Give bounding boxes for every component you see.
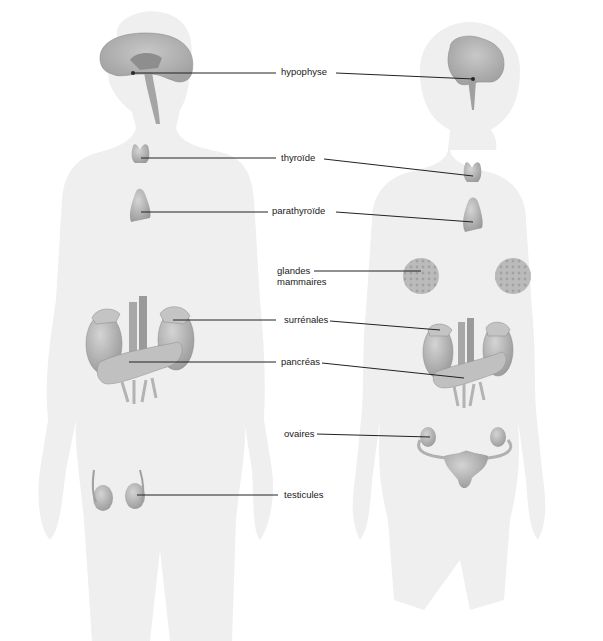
female-body-silhouette bbox=[353, 22, 546, 610]
label-surrenales: surrénales bbox=[282, 314, 330, 325]
label-ovaires: ovaires bbox=[282, 428, 317, 439]
label-glandes-mammaires: glandes mammaires bbox=[275, 265, 329, 287]
female-thyroid bbox=[464, 162, 482, 182]
label-thyroide: thyroïde bbox=[279, 152, 317, 163]
label-testicules: testicules bbox=[282, 489, 326, 500]
label-parathyroide: parathyroïde bbox=[270, 205, 327, 216]
label-hypophyse: hypophyse bbox=[279, 66, 329, 77]
label-pancreas: pancréas bbox=[279, 356, 322, 367]
